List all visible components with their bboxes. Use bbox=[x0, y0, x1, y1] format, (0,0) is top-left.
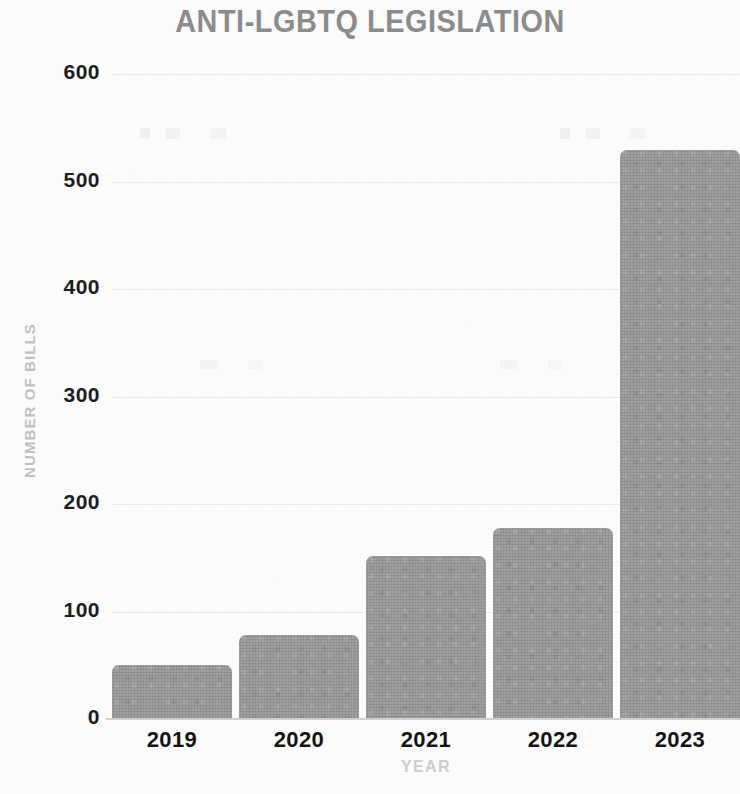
x-axis-tick-labels: 20192020202120222023 bbox=[112, 727, 740, 761]
y-tick-label-600: 600 bbox=[0, 60, 100, 84]
x-axis-title: YEAR bbox=[112, 758, 740, 776]
y-axis-title: NUMBER OF BILLS bbox=[21, 311, 38, 491]
chart-title: ANTI-LGBTQ LEGISLATION bbox=[26, 4, 714, 40]
bar-series bbox=[112, 74, 740, 719]
x-tick-label-2020: 2020 bbox=[239, 727, 359, 753]
bar-2020 bbox=[239, 635, 359, 719]
y-tick-label-300: 300 bbox=[0, 383, 100, 407]
bar-2021 bbox=[366, 556, 486, 719]
y-tick-label-100: 100 bbox=[0, 598, 100, 622]
x-tick-label-2021: 2021 bbox=[366, 727, 486, 753]
bar-2023 bbox=[620, 150, 740, 719]
plot-area bbox=[112, 74, 740, 719]
x-tick-label-2019: 2019 bbox=[112, 727, 232, 753]
y-tick-label-200: 200 bbox=[0, 490, 100, 514]
y-tick-label-400: 400 bbox=[0, 275, 100, 299]
y-tick-label-500: 500 bbox=[0, 168, 100, 192]
bar-2019 bbox=[112, 665, 232, 719]
y-tick-label-0: 0 bbox=[0, 705, 100, 729]
x-axis-baseline bbox=[106, 718, 740, 720]
bar-2022 bbox=[493, 528, 613, 719]
chart-page: ANTI-LGBTQ LEGISLATION NUMBER OF BILLS 0… bbox=[0, 0, 740, 794]
x-tick-label-2023: 2023 bbox=[620, 727, 740, 753]
x-tick-label-2022: 2022 bbox=[493, 727, 613, 753]
